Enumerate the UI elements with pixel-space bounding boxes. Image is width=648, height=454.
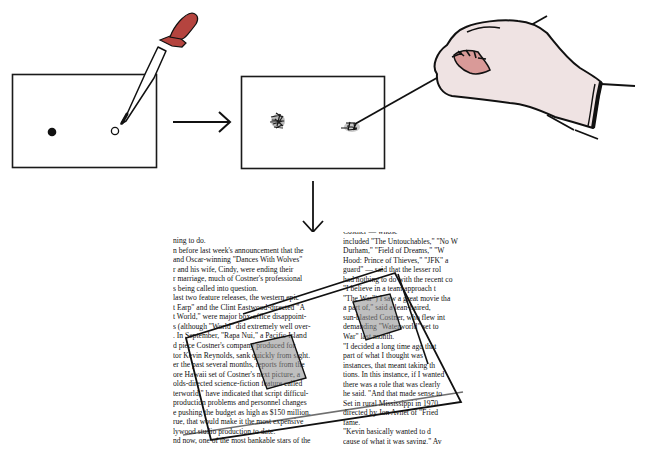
outline-edge-right (398, 274, 428, 364)
outline-edge-bottom (183, 392, 463, 435)
arrow-down-icon (303, 181, 323, 232)
shaded-sample-square-left (251, 335, 306, 389)
arrow-right-icon (173, 112, 230, 132)
newspaper-overlay (173, 232, 465, 444)
sample-card-2 (242, 77, 385, 169)
shaded-sample-square-right (353, 294, 401, 340)
newspaper-clipping: ning to do. n before last week's announc… (173, 232, 465, 444)
sample-card-1 (13, 75, 157, 168)
sampled-region-outline (186, 273, 461, 440)
dropper-icon (121, 13, 198, 124)
gloved-hand-icon (435, 20, 635, 139)
reference-dot (48, 128, 57, 137)
target-spot (111, 127, 118, 134)
